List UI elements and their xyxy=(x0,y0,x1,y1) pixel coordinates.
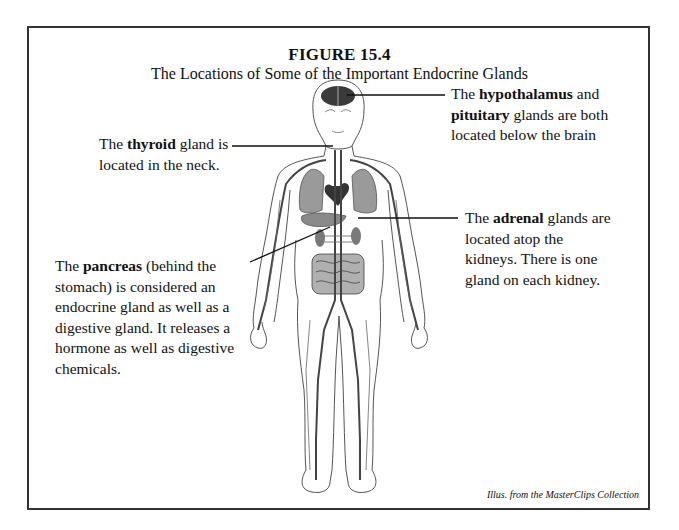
term-pancreas: pancreas xyxy=(83,257,142,274)
face-details xyxy=(325,110,351,133)
label-hypothalamus: The hypothalamus and pituitary glands ar… xyxy=(451,84,608,146)
term-thyroid: thyroid xyxy=(127,135,176,152)
label-pancreas: The pancreas (behind the stomach) is con… xyxy=(55,256,234,379)
illustration-credit: Illus. from the MasterClips Collection xyxy=(487,489,639,500)
term-pituitary: pituitary xyxy=(451,106,510,123)
heart xyxy=(325,183,349,206)
term-adrenal: adrenal xyxy=(493,209,544,226)
kidney-right xyxy=(351,227,361,245)
brain-gland xyxy=(321,86,355,106)
label-adrenal: The adrenal glands are located atop the … xyxy=(465,208,611,290)
intestines xyxy=(312,254,364,294)
term-hypothalamus: hypothalamus xyxy=(479,85,573,102)
right-hand xyxy=(411,322,427,348)
liver xyxy=(301,213,346,227)
label-thyroid: The thyroid gland is located in the neck… xyxy=(99,134,228,175)
